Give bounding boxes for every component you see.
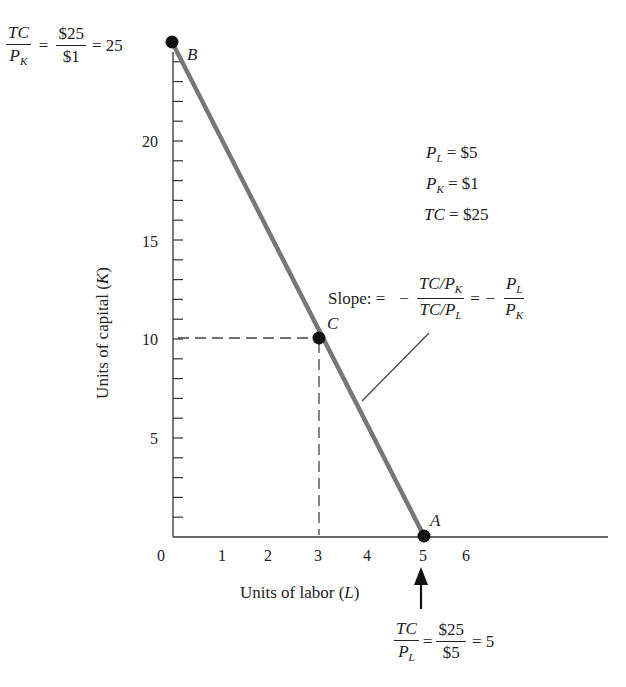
x-tick-label: 4: [363, 548, 371, 564]
x-tick-label: 1: [218, 548, 226, 564]
x-tick-label: 6: [462, 548, 470, 564]
x-intercept-equation: TC PL = $25 $5 = 5: [394, 620, 494, 663]
up-arrow-icon: [414, 567, 428, 585]
x-axis-label: Units of labor (L): [240, 584, 359, 601]
point-b-label: B: [187, 46, 197, 63]
y-axis-label: Units of capital (K): [93, 248, 113, 418]
parameters-block: PL = $5 PK = $1 TC = $25: [426, 140, 488, 228]
x-tick-label: 5: [419, 548, 427, 564]
y-tick-label: 20: [142, 134, 158, 150]
param-pk: PK = $1: [426, 171, 488, 202]
point-c-marker: [313, 332, 326, 345]
y-tick-label: 10: [142, 332, 158, 348]
y-intercept-equation: TC PK = $25 $1 = 25: [6, 24, 123, 67]
y-tick-label: 5: [150, 431, 158, 447]
point-b-marker: [166, 36, 179, 49]
x-tick-label: 0: [157, 548, 165, 564]
x-tick-label: 2: [264, 548, 272, 564]
slope-leader-line: [362, 333, 429, 401]
y-ticks: [173, 62, 183, 517]
y-tick-label: 15: [142, 234, 158, 250]
param-pl: PL = $5: [426, 140, 488, 171]
slope-equation: Slope: = − TC/PK TC/PL = − PL PK: [328, 275, 525, 321]
param-tc: TC = $25: [424, 202, 488, 228]
x-tick-label: 3: [314, 548, 322, 564]
point-a-label: A: [430, 512, 440, 529]
point-a-marker: [418, 530, 431, 543]
